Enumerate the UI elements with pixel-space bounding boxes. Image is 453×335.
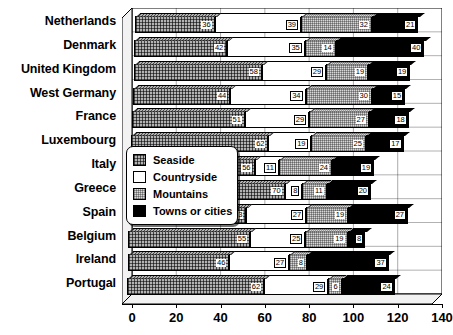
segment-value-label: 14 [322, 44, 332, 52]
bar-segment-towns-or-cities: 15 [372, 88, 405, 105]
bar-segment-top [306, 228, 353, 232]
bar-segment-top [247, 204, 312, 208]
bar-segment-top [312, 132, 372, 136]
segment-value-label: 55 [237, 235, 247, 243]
axis-tick-label: 120 [387, 310, 409, 325]
axis-tick [132, 304, 133, 308]
axis-tick-label: 60 [258, 310, 272, 325]
bar-segment-top [343, 275, 401, 279]
segment-value-label: 15 [392, 92, 402, 100]
bar-segment-countryside: 34 [230, 88, 305, 105]
bar-segment-towns-or-cities: 17 [366, 135, 404, 152]
bar-segment-seaside: 36 [135, 16, 215, 33]
category-label-portugal: Portugal [0, 276, 116, 290]
segment-value-label: 19 [361, 164, 371, 172]
segment-value-label: 11 [314, 187, 324, 195]
axis-tick-label: 80 [302, 310, 316, 325]
segment-value-label: 58 [249, 68, 259, 76]
bar-segment-top [307, 85, 378, 89]
segment-value-label: 27 [395, 211, 405, 219]
bar-segment-mountains: 24 [279, 159, 332, 176]
bar-segment-towns-or-cities: 27 [348, 207, 408, 224]
axis-tick-label: 100 [343, 310, 365, 325]
bar-segment-countryside: 25 [250, 231, 305, 248]
value-axis: 020406080100120140 [122, 300, 442, 334]
segment-value-label: 20 [358, 187, 368, 195]
bar-segment-countryside: 29 [245, 111, 309, 128]
bar-segment-top [327, 61, 374, 65]
category-label-france: France [0, 109, 116, 123]
segment-value-label: 24 [381, 283, 391, 291]
bar-segment-top [349, 204, 414, 208]
bar-segment-top [134, 85, 236, 89]
bar-segment-towns-or-cities: 24 [342, 278, 395, 295]
segment-value-label: 24 [319, 164, 329, 172]
category-label-united-kingdom: United Kingdom [0, 62, 116, 76]
segment-value-label: 36 [201, 21, 211, 29]
legend-label: Seaside [153, 154, 195, 166]
bar-segment-countryside: 39 [215, 16, 301, 33]
bar-segment-mountains: 11 [302, 183, 326, 200]
axis-tick [176, 304, 177, 308]
axis-tick [221, 304, 222, 308]
segment-value-label: 27 [356, 116, 366, 124]
segment-value-label: 62 [255, 140, 265, 148]
segment-value-label: 32 [359, 21, 369, 29]
bar-segment-countryside: 11 [255, 159, 279, 176]
bar-segment-mountains: 32 [301, 16, 372, 33]
bar-segment-top [307, 204, 354, 208]
segment-value-label: 56 [241, 164, 251, 172]
category-label-west-germany: West Germany [0, 86, 116, 100]
mountains-swatch [133, 188, 146, 200]
bar-segment-top [136, 13, 220, 17]
segment-value-label: 25 [290, 234, 302, 244]
category-label-belgium: Belgium [0, 229, 116, 243]
bar-segment-top [135, 61, 268, 65]
segment-value-label: 8 [291, 186, 299, 196]
legend-item-towns-or-cities: Towns or cities [133, 202, 231, 219]
segment-value-label: 62 [251, 283, 261, 291]
bar-segment-towns-or-cities: 19 [332, 159, 374, 176]
segment-value-label: 46 [216, 259, 226, 267]
bar-segment-towns-or-cities: 37 [307, 254, 389, 271]
axis-tick [265, 304, 266, 308]
bar-segment-towns-or-cities: 19 [368, 64, 410, 81]
bar-segment-top [337, 37, 430, 41]
axis-line [122, 304, 442, 305]
bar-segment-top [129, 228, 256, 232]
bar-segment-mountains: 25 [311, 135, 366, 152]
legend-item-mountains: Mountains [133, 185, 231, 202]
bar-segment-top [135, 37, 233, 41]
segment-value-label: 35 [289, 43, 301, 53]
bar-segment-mountains: 8 [289, 254, 307, 271]
bar-segment-seaside: 42 [134, 40, 227, 57]
bar-segment-top [265, 275, 334, 279]
category-label-greece: Greece [0, 181, 116, 195]
bar-segment-top [308, 251, 395, 255]
segment-value-label: 27 [291, 210, 303, 220]
bar-segment-towns-or-cities: 20 [327, 183, 371, 200]
segment-value-label: 39 [286, 20, 298, 30]
legend-label: Countryside [153, 171, 217, 183]
countryside-swatch [133, 171, 146, 183]
bar-segment-top [280, 156, 338, 160]
segment-value-label: 51 [232, 116, 242, 124]
bar-segment-mountains: 19 [326, 64, 368, 81]
legend-label: Towns or cities [153, 205, 232, 217]
bar-segment-top [230, 251, 295, 255]
bar-segment-top [369, 61, 416, 65]
bar-segment-top [231, 85, 311, 89]
bar-segment-seaside: 46 [128, 254, 230, 271]
segment-value-label: 8 [298, 259, 304, 267]
bar-segment-top [269, 132, 316, 136]
segment-value-label: 30 [359, 92, 369, 100]
bar-segment-towns-or-cities: 8 [348, 231, 366, 248]
bar-segment-towns-or-cities: 18 [369, 111, 409, 128]
bar-segment-towns-or-cities: 40 [336, 40, 425, 57]
segment-value-label: 44 [217, 92, 227, 100]
axis-tick-label: 140 [431, 310, 453, 325]
axis-tick [398, 304, 399, 308]
bar-segment-top [129, 251, 236, 255]
bar-segment-top [251, 228, 311, 232]
